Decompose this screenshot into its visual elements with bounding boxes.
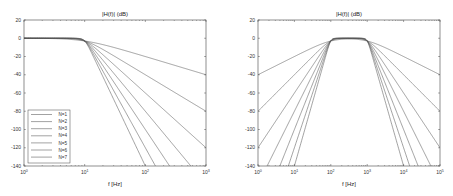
y-tick-label: -140 [245, 163, 255, 169]
y-tick-label: 20 [249, 17, 255, 23]
x-tick-label: 100 [254, 169, 262, 175]
left-x-label: f [Hz] [108, 181, 122, 187]
legend: N=1N=2N=3N=4N=5N=6N=7 [28, 110, 70, 163]
legend-entry: N=3 [58, 126, 67, 131]
legend-entry: N=2 [58, 119, 67, 124]
y-tick-label: -40 [14, 71, 21, 77]
x-tick-label: 101 [291, 169, 299, 175]
legend-entry: N=1 [58, 112, 67, 117]
y-tick-label: -20 [14, 53, 21, 59]
x-tick-label: 105 [436, 169, 444, 175]
x-tick-label: 103 [363, 169, 371, 175]
y-tick-label: -100 [11, 126, 21, 132]
left-plot-title: |H(f)| (dB) [102, 11, 128, 17]
y-tick-label: 0 [252, 35, 255, 41]
y-tick-label: -80 [248, 108, 255, 114]
y-tick-label: -120 [245, 144, 255, 150]
legend-entry: N=7 [58, 155, 67, 160]
bandpass-plot: |H(f)| (dB) 200-20-40-60-80-100-120-140 … [245, 11, 444, 196]
y-tick-label: -20 [248, 53, 255, 59]
right-plot-frame [258, 20, 440, 166]
right-plot-title: |H(f)| (dB) [336, 11, 362, 17]
y-tick-label: -140 [11, 163, 21, 169]
legend-entry: N=6 [58, 148, 67, 153]
x-tick-label: 104 [400, 169, 408, 175]
x-tick-label: 102 [327, 169, 335, 175]
x-tick-label: 100 [20, 169, 28, 175]
y-tick-label: 20 [15, 17, 21, 23]
legend-entry: N=5 [58, 141, 67, 146]
y-tick-label: -40 [248, 71, 255, 77]
lowpass-plot: |H(f)| (dB) 200-20-40-60-80-100-120-140 … [11, 11, 210, 196]
y-tick-label: -80 [14, 108, 21, 114]
y-tick-label: -60 [14, 90, 21, 96]
y-tick-label: -100 [245, 126, 255, 132]
right-x-label: f [Hz] [342, 181, 356, 187]
x-tick-label: 102 [142, 169, 150, 175]
x-tick-label: 103 [202, 169, 210, 175]
y-tick-label: -60 [248, 90, 255, 96]
x-tick-label: 101 [81, 169, 89, 175]
y-tick-label: 0 [18, 35, 21, 41]
y-tick-label: -120 [11, 144, 21, 150]
chart-canvas: |H(f)| (dB) 200-20-40-60-80-100-120-140 … [0, 0, 453, 196]
legend-entry: N=4 [58, 133, 67, 138]
